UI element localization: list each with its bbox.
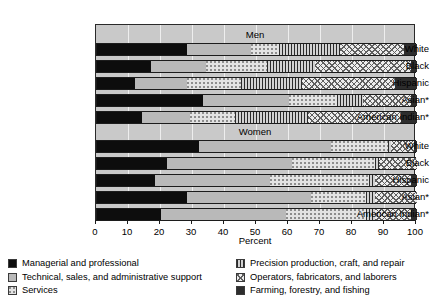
- x-tick-mark: [351, 220, 352, 224]
- bar-segment-services: [289, 95, 337, 106]
- x-tick-mark: [127, 220, 128, 224]
- x-tick-mark: [159, 220, 160, 224]
- category-label: White: [341, 139, 433, 152]
- bar-segment-technical: [203, 95, 289, 106]
- legend-swatch-precision: [236, 259, 245, 268]
- bar-segment-technical: [155, 175, 270, 186]
- bar-segment-technical: [187, 44, 251, 55]
- stacked-bar-chart: Men Women WhiteBlackHispanicAsian*Americ…: [0, 0, 433, 303]
- category-label: Black: [341, 156, 433, 169]
- legend-swatch-managerial: [8, 259, 17, 268]
- legend-column-right: Precision production, craft, and repairO…: [236, 258, 405, 296]
- category-label: American Indian*: [341, 110, 433, 123]
- bar-segment-precision: [267, 61, 315, 72]
- bar-segment-technical: [151, 61, 205, 72]
- bar-segment-services: [206, 61, 267, 72]
- bar-segment-technical: [187, 192, 312, 203]
- bar-segment-managerial: [97, 44, 187, 55]
- category-label: Black: [341, 59, 433, 72]
- bar-segment-technical: [161, 209, 286, 220]
- bar-segment-technical: [142, 112, 190, 123]
- bar-segment-technical: [199, 141, 330, 152]
- legend-swatch-operators: [236, 273, 245, 282]
- bar-segment-managerial: [97, 192, 187, 203]
- x-tick-mark: [223, 220, 224, 224]
- category-label: Hispanic: [341, 173, 433, 186]
- legend-swatch-farming: [236, 286, 245, 295]
- x-tick-mark: [255, 220, 256, 224]
- legend-item-technical: Technical, sales, and administrative sup…: [8, 272, 236, 283]
- bar-segment-managerial: [97, 158, 167, 169]
- bar-segment-managerial: [97, 95, 203, 106]
- bar-segment-managerial: [97, 61, 151, 72]
- legend-item-managerial: Managerial and professional: [8, 258, 236, 269]
- bar-segment-managerial: [97, 78, 135, 89]
- legend-item-precision: Precision production, craft, and repair: [236, 258, 405, 269]
- bar-segment-precision: [279, 44, 340, 55]
- category-label: American Indian*: [341, 207, 433, 220]
- bar-segment-managerial: [97, 175, 155, 186]
- legend-swatch-services: [8, 286, 17, 295]
- legend-label: Technical, sales, and administrative sup…: [22, 272, 202, 283]
- category-label: Asian*: [341, 93, 433, 106]
- bar-segment-technical: [135, 78, 186, 89]
- bar-segment-technical: [167, 158, 292, 169]
- legend-label: Farming, forestry, and fishing: [250, 285, 370, 296]
- legend-label: Precision production, craft, and repair: [250, 258, 405, 269]
- legend: Managerial and professionalTechnical, sa…: [8, 258, 428, 296]
- category-label: Asian*: [341, 190, 433, 203]
- bar-segment-services: [187, 78, 241, 89]
- legend-label: Operators, fabricators, and laborers: [250, 272, 397, 283]
- panel-title-men: Men: [96, 29, 414, 40]
- bar-segment-precision: [241, 78, 302, 89]
- x-tick-mark: [319, 220, 320, 224]
- x-tick-mark: [415, 220, 416, 224]
- x-axis-title: Percent: [95, 235, 415, 246]
- legend-label: Managerial and professional: [22, 258, 139, 269]
- x-tick-mark: [95, 220, 96, 224]
- bar-segment-managerial: [97, 209, 161, 220]
- legend-column-left: Managerial and professionalTechnical, sa…: [8, 258, 236, 296]
- x-tick-mark: [383, 220, 384, 224]
- bar-segment-managerial: [97, 112, 142, 123]
- legend-label: Services: [22, 285, 58, 296]
- legend-item-farming: Farming, forestry, and fishing: [236, 285, 405, 296]
- panel-title-women: Women: [96, 126, 414, 137]
- legend-swatch-technical: [8, 273, 17, 282]
- bar-segment-services: [190, 112, 235, 123]
- category-label: White: [341, 42, 433, 55]
- bar-segment-managerial: [97, 141, 199, 152]
- legend-item-services: Services: [8, 285, 236, 296]
- bar-segment-precision: [235, 112, 309, 123]
- legend-item-operators: Operators, fabricators, and laborers: [236, 272, 405, 283]
- x-tick-mark: [191, 220, 192, 224]
- category-label: Hispanic: [341, 76, 433, 89]
- bar-segment-services: [251, 44, 280, 55]
- x-tick-mark: [287, 220, 288, 224]
